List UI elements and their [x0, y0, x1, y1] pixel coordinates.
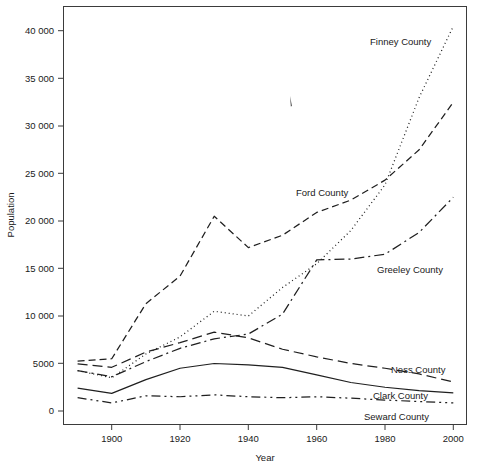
x-axis-title: Year — [255, 452, 274, 463]
y-tick-label-10000: 10 000 — [25, 310, 54, 321]
y-tick-label-5000: 5000 — [33, 358, 54, 369]
y-axis-title: Population — [5, 193, 16, 238]
x-tickmarks — [112, 425, 454, 431]
series-layer — [78, 26, 454, 403]
y-tickmarks — [58, 31, 64, 411]
x-tick-label-1900: 1900 — [101, 433, 122, 444]
y-tick-label-40000: 40 000 — [25, 25, 54, 36]
x-tick-label-1940: 1940 — [238, 433, 259, 444]
y-tick-label-15000: 15 000 — [25, 263, 54, 274]
series-label-ford-county: Ford County — [296, 187, 349, 198]
y-tick-label-35000: 35 000 — [25, 73, 54, 84]
x-tick-label-1920: 1920 — [169, 433, 190, 444]
population-line-chart: 40 000 35 000 30 000 25 000 20 000 15 00… — [0, 0, 478, 470]
series-label-greeley-county: Greeley County — [377, 264, 443, 275]
chart-canvas: 40 000 35 000 30 000 25 000 20 000 15 00… — [0, 0, 478, 470]
series-line-finney-county — [78, 26, 454, 378]
series-label-finney-county: Finney County — [370, 36, 432, 47]
scan-speck-artifact — [290, 96, 292, 106]
y-tick-label-20000: 20 000 — [25, 215, 54, 226]
y-tick-label-25000: 25 000 — [25, 168, 54, 179]
x-tick-label-2000: 2000 — [443, 433, 464, 444]
y-tick-label-0: 0 — [49, 405, 54, 416]
y-tick-labels: 40 000 35 000 30 000 25 000 20 000 15 00… — [25, 25, 54, 416]
x-tick-labels: 1900 1920 1940 1960 1980 2000 — [101, 433, 464, 444]
y-tick-label-30000: 30 000 — [25, 120, 54, 131]
x-tick-label-1980: 1980 — [374, 433, 395, 444]
series-label-clark-county: Clark County — [373, 390, 428, 401]
x-tick-label-1960: 1960 — [306, 433, 327, 444]
series-line-ford-county — [78, 102, 454, 361]
series-label-seward-county: Seward County — [364, 411, 429, 422]
series-label-ness-county: Ness County — [391, 364, 446, 375]
series-line-greeley-county — [78, 197, 454, 377]
